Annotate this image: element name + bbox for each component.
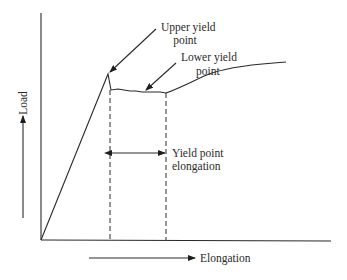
x-axis-label: Elongation [200, 252, 251, 265]
load-curve [41, 62, 286, 240]
load-elongation-diagram: Load Elongation Upper yield point Lower … [0, 0, 347, 280]
diagram-canvas: Load Elongation Upper yield point Lower … [0, 0, 347, 280]
yield-elongation-label-line2: elongation [172, 160, 221, 173]
lower-yield-label-line2: point [196, 65, 220, 78]
upper-yield-leader-arrow [110, 29, 156, 72]
x-axis [41, 240, 331, 241]
upper-yield-label-line1: Upper yield [161, 21, 216, 34]
upper-yield-label-line2: point [173, 34, 197, 47]
yield-elongation-label-line1: Yield point [172, 147, 224, 160]
lower-yield-label-line1: Lower yield [181, 51, 237, 64]
y-axis-label: Load [17, 91, 29, 115]
lower-yield-leader-arrow [146, 63, 176, 90]
